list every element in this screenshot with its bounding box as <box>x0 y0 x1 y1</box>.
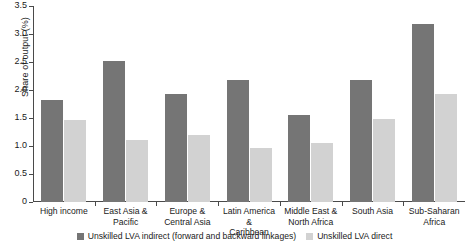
y-axis-tick-label: 3.5 <box>14 0 27 10</box>
y-axis-tick-label: 0.5 <box>14 168 27 178</box>
legend-swatch-direct-icon <box>306 233 313 240</box>
bar-indirect[interactable] <box>288 115 310 202</box>
bar-direct[interactable] <box>373 119 395 202</box>
bar-group <box>342 6 404 202</box>
bar-indirect[interactable] <box>412 24 434 202</box>
bar-group <box>156 6 218 202</box>
bar-indirect[interactable] <box>103 61 125 202</box>
bar-group <box>95 6 157 202</box>
legend-label: Unskilled LVA indirect (forward and back… <box>88 231 296 241</box>
y-axis-tick-label: 1.5 <box>14 112 27 122</box>
bar-indirect[interactable] <box>41 100 63 202</box>
legend-item[interactable]: Unskilled LVA direct <box>306 231 392 241</box>
bar-group <box>33 6 95 202</box>
bar-indirect[interactable] <box>227 80 249 202</box>
bar-group <box>403 6 465 202</box>
bar-chart-figure: Share of output (%) 3.53.02.52.01.51.00.… <box>0 0 469 248</box>
bar-direct[interactable] <box>188 135 210 202</box>
bar-direct[interactable] <box>435 94 457 202</box>
chart-legend: Unskilled LVA indirect (forward and back… <box>0 231 469 241</box>
plot-area: 3.53.02.52.01.51.00.50 <box>33 6 465 202</box>
bar-direct[interactable] <box>126 140 148 202</box>
y-axis-tick-label: 2.0 <box>14 84 27 94</box>
bar-direct[interactable] <box>250 148 272 202</box>
y-axis-tick-label: 2.5 <box>14 56 27 66</box>
bar-groups <box>33 6 465 202</box>
bar-indirect[interactable] <box>350 80 372 202</box>
legend-swatch-indirect-icon <box>77 233 84 240</box>
bar-direct[interactable] <box>311 143 333 202</box>
bar-direct[interactable] <box>64 120 86 202</box>
bar-group <box>218 6 280 202</box>
legend-item[interactable]: Unskilled LVA indirect (forward and back… <box>77 231 296 241</box>
bar-indirect[interactable] <box>165 94 187 202</box>
y-axis-tick-label: 3.0 <box>14 28 27 38</box>
y-axis-tick-label: 1.0 <box>14 140 27 150</box>
bar-group <box>280 6 342 202</box>
y-axis-tick-mark <box>29 202 33 203</box>
y-axis-tick-label: 0 <box>22 196 27 206</box>
legend-label: Unskilled LVA direct <box>317 231 392 241</box>
